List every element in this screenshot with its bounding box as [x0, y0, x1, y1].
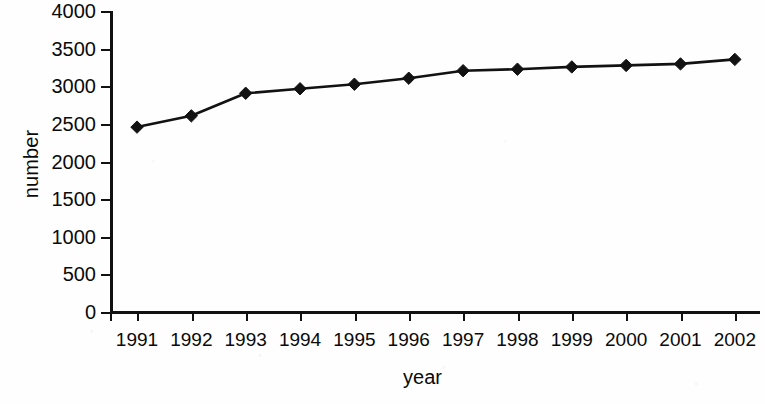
data-point-marker: [240, 87, 252, 99]
data-point-marker: [457, 64, 469, 76]
data-point-marker: [729, 53, 741, 65]
data-series-layer: [0, 0, 765, 404]
data-point-marker: [185, 110, 197, 122]
data-point-marker: [674, 58, 686, 70]
data-point-marker: [511, 63, 523, 75]
line-chart-figure: number 05001000150020002500300035004000 …: [0, 0, 765, 404]
series-line-number: [137, 59, 735, 127]
data-point-marker: [566, 61, 578, 73]
data-point-marker: [403, 72, 415, 84]
x-axis-title: year: [110, 366, 735, 389]
data-point-marker: [620, 59, 632, 71]
data-point-marker: [348, 78, 360, 90]
data-point-marker: [131, 121, 143, 133]
data-point-marker: [294, 83, 306, 95]
